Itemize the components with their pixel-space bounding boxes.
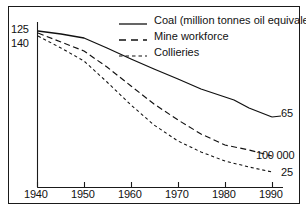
chart-legend: Coal (million tonnes oil equivalent) Min…: [118, 12, 298, 60]
legend-item-workforce: Mine workforce: [118, 28, 298, 44]
x-axis-ticks: [38, 182, 273, 188]
end-label-workforce: 100 000: [256, 150, 294, 161]
x-axis-tick-label-1970: 1970: [165, 189, 189, 200]
chart-figure: 125 140 1940 1950 1960 1970 1980 1990 65…: [0, 0, 306, 217]
legend-label-collieries: Collieries: [154, 46, 199, 58]
legend-swatch-solid-icon: [118, 15, 148, 25]
end-label-coal: 65: [281, 108, 293, 119]
legend-item-coal: Coal (million tonnes oil equivalent): [118, 12, 298, 28]
legend-label-workforce: Mine workforce: [154, 30, 229, 42]
x-axis-tick-label-1990: 1990: [259, 189, 283, 200]
y-axis-label-other-start: 140: [11, 38, 29, 49]
x-axis-tick-label-1940: 1940: [24, 189, 48, 200]
legend-swatch-short-dash-icon: [118, 47, 148, 57]
x-axis-tick-label-1950: 1950: [71, 189, 95, 200]
legend-item-collieries: Collieries: [118, 44, 298, 60]
end-label-collieries: 25: [281, 167, 293, 178]
y-axis-label-coal-start: 125: [11, 24, 29, 35]
legend-label-coal: Coal (million tonnes oil equivalent): [154, 14, 306, 26]
series-endcap-coal: [272, 116, 281, 117]
x-axis-tick-label-1960: 1960: [118, 189, 142, 200]
legend-swatch-long-dash-icon: [118, 31, 148, 41]
x-axis-tick-label-1980: 1980: [212, 189, 236, 200]
